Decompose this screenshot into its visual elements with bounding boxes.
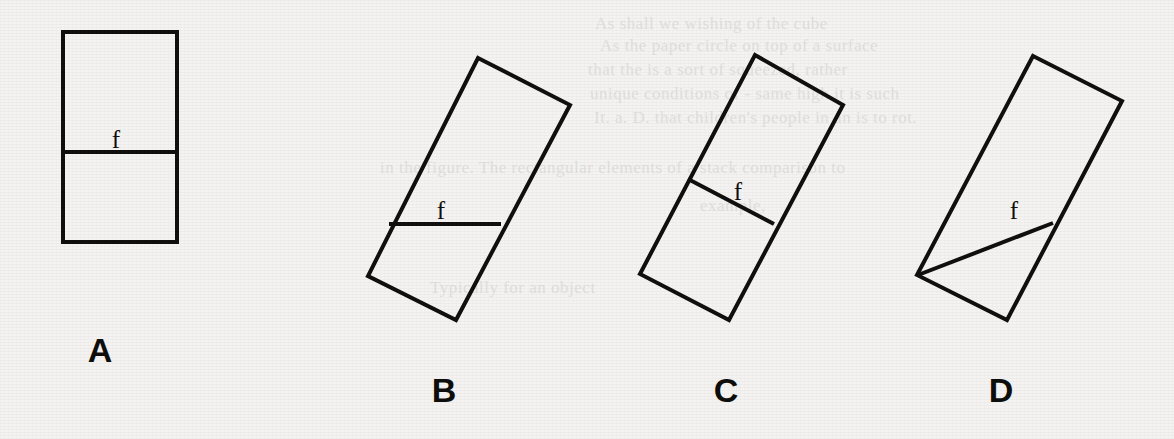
panel-caption-a: A: [88, 331, 113, 369]
shape-panel-c: fC: [640, 55, 843, 409]
panel-caption-d: D: [989, 371, 1014, 409]
panel-caption-c: C: [714, 371, 739, 409]
shape-panel-a: fA: [63, 32, 177, 369]
fold-line-c: [688, 179, 774, 224]
fold-line-label-c: f: [734, 178, 743, 205]
shape-diagram: fAfBfCfD: [0, 0, 1174, 439]
shape-outline-d: [917, 56, 1122, 320]
panel-caption-b: B: [432, 371, 457, 409]
shape-panel-b: fB: [368, 58, 570, 409]
figure-canvas: As shall we wishing of the cubeAs the pa…: [0, 0, 1174, 439]
fold-line-label-b: f: [437, 197, 446, 224]
fold-line-label-a: f: [112, 126, 121, 153]
fold-line-label-d: f: [1010, 197, 1019, 224]
shape-outline-b: [368, 58, 570, 320]
shape-panel-d: fD: [917, 56, 1122, 409]
